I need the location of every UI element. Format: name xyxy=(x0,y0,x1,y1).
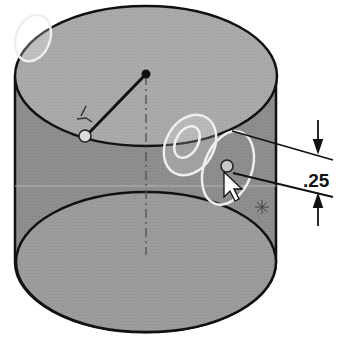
sketch-point[interactable] xyxy=(221,160,233,172)
dimension-value[interactable]: .25 xyxy=(303,170,330,191)
cad-viewport[interactable]: .25 xyxy=(0,0,343,344)
sketch-endpoint[interactable] xyxy=(79,130,91,142)
origin-icon xyxy=(255,200,269,214)
sketch-center-point[interactable] xyxy=(142,70,151,79)
